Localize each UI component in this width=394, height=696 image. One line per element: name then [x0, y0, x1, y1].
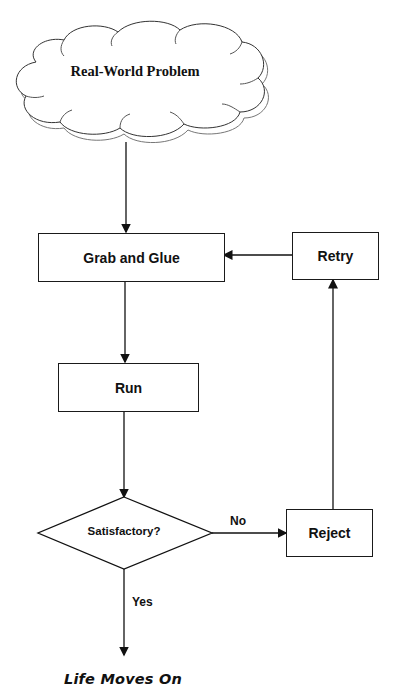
node-grab-and-glue: Grab and Glue [38, 233, 225, 282]
node-retry-label: Retry [318, 248, 354, 264]
edge-label-no-text: No [230, 514, 246, 528]
node-reject: Reject [286, 509, 373, 557]
cloud-shape [16, 21, 268, 142]
flowchart: Real-World Problem Grab and Glue Retry R… [0, 0, 394, 696]
flowchart-connectors [0, 0, 394, 696]
edge-label-yes-text: Yes [132, 595, 153, 609]
node-grab-and-glue-label: Grab and Glue [83, 250, 179, 266]
node-run-label: Run [115, 380, 142, 396]
node-retry: Retry [292, 232, 379, 280]
node-real-world-problem: Real-World Problem [40, 63, 230, 80]
edge-label-yes: Yes [132, 595, 153, 609]
node-run: Run [58, 363, 199, 412]
node-life-moves-on-label: Life Moves On [64, 671, 182, 687]
node-real-world-problem-label: Real-World Problem [70, 63, 199, 79]
node-life-moves-on: Life Moves On [60, 671, 186, 687]
node-reject-label: Reject [308, 525, 350, 541]
edge-label-no: No [230, 514, 246, 528]
node-satisfactory: Satisfactory? [64, 525, 184, 537]
node-satisfactory-label: Satisfactory? [88, 525, 161, 537]
